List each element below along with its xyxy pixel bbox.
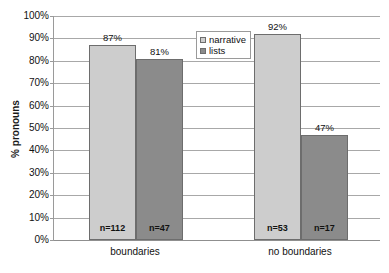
bar-chart: % pronouns 0%10%20%30%40%50%60%70%80%90%…	[0, 0, 389, 273]
bar: n=112	[89, 45, 136, 240]
x-axis-category-labels: boundariesno boundaries	[53, 246, 379, 266]
y-axis-tick-label: 0%	[4, 235, 49, 245]
bar-value-label: 87%	[89, 32, 136, 43]
bar: n=47	[136, 59, 183, 240]
bar: n=53	[254, 34, 301, 240]
bar-n-label: n=47	[137, 223, 182, 233]
y-axis-tickmark	[50, 61, 54, 62]
y-axis-tick-label: 80%	[4, 56, 49, 66]
gridline	[54, 16, 380, 17]
bar-n-label: n=17	[302, 223, 347, 233]
bar: n=17	[301, 135, 348, 240]
y-axis-tickmark	[50, 173, 54, 174]
y-axis-tick-label: 90%	[4, 33, 49, 43]
y-axis-tickmark	[50, 240, 54, 241]
y-axis-tickmark	[50, 150, 54, 151]
legend-item-label: narrative	[209, 34, 246, 45]
y-axis-tick-label: 70%	[4, 78, 49, 88]
y-axis-tickmark	[50, 218, 54, 219]
legend-swatch-icon	[200, 48, 206, 54]
y-axis-tickmark	[50, 106, 54, 107]
legend-item: lists	[200, 45, 246, 56]
x-axis-category-label: boundaries	[58, 246, 212, 257]
y-axis-tick-labels: 0%10%20%30%40%50%60%70%80%90%100%	[4, 16, 49, 240]
y-axis-tick-label: 20%	[4, 190, 49, 200]
bar-value-label: 47%	[301, 122, 348, 133]
y-axis-tick-label: 40%	[4, 145, 49, 155]
y-axis-tick-label: 30%	[4, 168, 49, 178]
bar-value-label: 81%	[136, 46, 183, 57]
legend-item-label: lists	[209, 45, 225, 56]
y-axis-tick-label: 60%	[4, 101, 49, 111]
x-axis-category-label: no boundaries	[223, 246, 377, 257]
bar-n-label: n=53	[255, 223, 300, 233]
bar-value-label: 92%	[254, 21, 301, 32]
y-axis-tickmark	[50, 128, 54, 129]
y-axis-tickmark	[50, 38, 54, 39]
y-axis-tickmark	[50, 83, 54, 84]
y-axis-tickmark	[50, 195, 54, 196]
gridline	[54, 240, 380, 241]
chart-legend: narrativelists	[196, 31, 251, 59]
y-axis-tick-label: 50%	[4, 123, 49, 133]
y-axis-tick-label: 10%	[4, 213, 49, 223]
legend-swatch-icon	[200, 37, 206, 43]
y-axis-tickmark	[50, 16, 54, 17]
y-axis-tick-label: 100%	[4, 11, 49, 21]
legend-item: narrative	[200, 34, 246, 45]
bar-n-label: n=112	[90, 223, 135, 233]
